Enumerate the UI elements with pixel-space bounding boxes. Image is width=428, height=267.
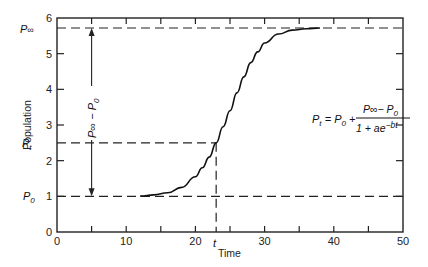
arrow-up-icon xyxy=(89,28,95,36)
x-tick-label: 50 xyxy=(397,235,409,247)
svg-text:Pt = P0 +: Pt = P0 + xyxy=(312,113,356,128)
logistic-growth-chart: 01020304050 0123456 P∞ − P0 P∞ Pt P0 t T… xyxy=(0,0,428,267)
y-tick-label: 3 xyxy=(46,119,52,131)
y-tick-label: 2 xyxy=(46,155,52,167)
reference-lines xyxy=(57,28,403,232)
p-zero-label: P0 xyxy=(23,190,35,205)
y-axis-title: Population xyxy=(21,100,33,150)
x-tick-label: 10 xyxy=(120,235,132,247)
range-arrow: P∞ − P0 xyxy=(86,28,101,196)
range-arrow-label: P∞ − P0 xyxy=(86,98,101,138)
y-tick-label: 1 xyxy=(46,190,52,202)
x-axis-ticks: 01020304050 xyxy=(54,226,409,247)
y-tick-label: 6 xyxy=(46,12,52,24)
svg-text:1 + ae−bt: 1 + ae−bt xyxy=(356,120,398,134)
logistic-curve xyxy=(140,28,320,196)
x-tick-label: 40 xyxy=(328,235,340,247)
x-tick-label: 0 xyxy=(54,235,60,247)
arrow-down-icon xyxy=(89,188,95,196)
t-label: t xyxy=(213,237,217,249)
y-tick-label: 5 xyxy=(46,48,52,60)
p-infinity-label: P∞ xyxy=(20,23,34,35)
x-tick-label: 20 xyxy=(189,235,201,247)
logistic-equation: Pt = P0 + P∞− P0 1 + ae−bt xyxy=(312,103,410,134)
y-tick-label: 4 xyxy=(46,83,52,95)
plot-frame xyxy=(57,18,403,232)
x-tick-label: 30 xyxy=(258,235,270,247)
y-tick-label: 0 xyxy=(46,226,52,238)
x-axis-title: Time xyxy=(218,247,241,259)
y-axis-ticks: 0123456 xyxy=(46,12,64,238)
svg-text:P∞− P0: P∞− P0 xyxy=(363,103,399,118)
top-axis-ticks xyxy=(92,18,369,24)
